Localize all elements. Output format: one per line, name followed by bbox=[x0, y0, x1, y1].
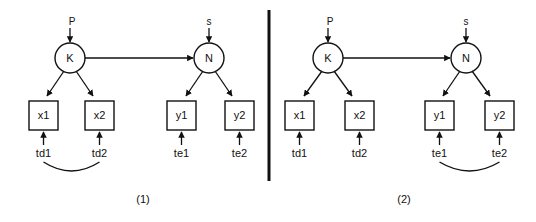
path-diagram-svg: P s K N x1 x2 y1 bbox=[0, 0, 536, 222]
arrow-N-to-y2 bbox=[472, 71, 490, 96]
label-disturbance-P: P bbox=[327, 16, 334, 27]
panel-1-caption: (1) bbox=[136, 193, 149, 205]
indicator-box-y1-label: y1 bbox=[176, 109, 188, 121]
arrow-N-to-y1 bbox=[186, 71, 203, 96]
correlated-error-curve-te1-te2 bbox=[440, 162, 500, 171]
latent-node-N-label: N bbox=[462, 52, 470, 64]
indicator-box-x1-label: x1 bbox=[294, 109, 306, 121]
arrow-K-to-x2 bbox=[76, 71, 93, 96]
panel-2: P s K N x1 x2 y1 y2 td1 bbox=[285, 16, 514, 205]
arrow-N-to-y1 bbox=[443, 71, 460, 96]
indicator-box-y1-label: y1 bbox=[434, 109, 446, 121]
panel-2-caption: (2) bbox=[397, 193, 410, 205]
error-label-td2: td2 bbox=[352, 147, 367, 159]
indicator-box-x1-label: x1 bbox=[38, 109, 50, 121]
latent-node-K-label: K bbox=[66, 52, 74, 64]
indicator-box-x2-label: x2 bbox=[354, 109, 366, 121]
error-label-te1: te1 bbox=[174, 147, 189, 159]
correlated-error-curve-td1-td2 bbox=[44, 162, 100, 171]
figure-root: P s K N x1 x2 y1 bbox=[0, 0, 536, 222]
error-label-td1: td1 bbox=[36, 147, 51, 159]
label-disturbance-s: s bbox=[464, 16, 469, 27]
indicator-box-y2-label: y2 bbox=[234, 109, 246, 121]
panel-1: P s K N x1 x2 y1 bbox=[29, 16, 254, 205]
label-disturbance-P: P bbox=[69, 16, 76, 27]
latent-node-K-label: K bbox=[324, 52, 332, 64]
error-label-te2: te2 bbox=[232, 147, 247, 159]
arrow-N-to-y2 bbox=[215, 71, 232, 96]
arrow-K-to-x2 bbox=[334, 71, 352, 96]
label-disturbance-s: s bbox=[207, 16, 212, 27]
indicator-box-y2-label: y2 bbox=[494, 109, 506, 121]
error-label-te1: te1 bbox=[432, 147, 447, 159]
error-label-te2: te2 bbox=[492, 147, 507, 159]
error-label-td1: td1 bbox=[292, 147, 307, 159]
arrow-K-to-x1 bbox=[47, 71, 64, 96]
error-label-td2: td2 bbox=[92, 147, 107, 159]
arrow-K-to-x1 bbox=[304, 71, 322, 96]
latent-node-N-label: N bbox=[205, 52, 213, 64]
indicator-box-x2-label: x2 bbox=[94, 109, 106, 121]
